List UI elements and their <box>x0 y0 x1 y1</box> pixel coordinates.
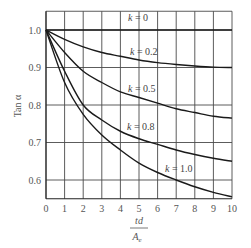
series-labels: k = 0k = 0.2k = 0.5k = 0.8k = 1.0 <box>127 12 193 174</box>
chart: 012345678910 0.60.70.80.91.0 k = 0k = 0.… <box>0 0 251 248</box>
x-axis-title: td Ae <box>130 215 148 244</box>
series-label: k = 0.2 <box>130 46 158 57</box>
y-axis-label: Tan α <box>12 94 23 117</box>
x-tick-labels: 012345678910 <box>44 203 238 214</box>
y-tick-label: 0.6 <box>29 175 42 186</box>
series-label: k = 1.0 <box>165 163 193 174</box>
y-axis-title: Tan α <box>12 94 23 117</box>
x-tick-label: 7 <box>174 203 179 214</box>
x-axis-numerator: td <box>135 215 144 226</box>
x-tick-label: 2 <box>81 203 86 214</box>
x-tick-label: 9 <box>211 203 216 214</box>
x-tick-label: 8 <box>192 203 197 214</box>
grid-lines <box>46 11 232 199</box>
x-tick-label: 10 <box>227 203 237 214</box>
x-tick-label: 5 <box>137 203 142 214</box>
x-tick-label: 0 <box>44 203 49 214</box>
x-axis-denominator: Ae <box>131 231 141 244</box>
y-tick-label: 1.0 <box>29 25 42 36</box>
series-label: k = 0.5 <box>128 83 156 94</box>
x-tick-label: 6 <box>155 203 160 214</box>
y-tick-labels: 0.60.70.80.91.0 <box>29 25 42 186</box>
y-tick-label: 0.9 <box>29 62 42 73</box>
x-tick-label: 3 <box>99 203 104 214</box>
x-tick-label: 1 <box>62 203 67 214</box>
y-tick-label: 0.7 <box>29 137 42 148</box>
series-label: k = 0.8 <box>127 121 155 132</box>
series-label: k = 0 <box>128 12 148 23</box>
y-tick-label: 0.8 <box>29 100 42 111</box>
x-tick-label: 4 <box>118 203 123 214</box>
